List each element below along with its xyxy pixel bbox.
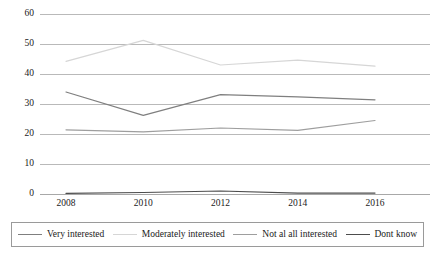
y-tick-label-0: 0 [8, 189, 34, 199]
x-tick-label-2012: 2012 [211, 198, 230, 209]
y-tick-label-60: 60 [8, 9, 34, 19]
x-tick-label-2016: 2016 [366, 198, 385, 209]
legend-item-dont-know[interactable]: Dont know [346, 229, 418, 240]
series-line-very-interested [66, 92, 375, 115]
y-tick-label-30: 30 [8, 99, 34, 109]
series-line-not-al-all-interested [66, 121, 375, 132]
legend-label: Dont know [375, 229, 418, 240]
legend-item-moderately-interested[interactable]: Moderately interested [113, 229, 225, 240]
series-layer [40, 14, 430, 194]
x-tick-label-2014: 2014 [288, 198, 307, 209]
series-line-moderately-interested [66, 40, 375, 66]
legend-swatch-icon [233, 234, 257, 235]
x-tick-label-2008: 2008 [57, 198, 76, 209]
gridline-0 [40, 194, 430, 195]
y-axis: 0102030405060 [0, 14, 34, 194]
legend-item-not-al-all-interested[interactable]: Not al all interested [233, 229, 337, 240]
plot-area [40, 14, 430, 194]
y-tick-label-10: 10 [8, 159, 34, 169]
y-tick-label-40: 40 [8, 69, 34, 79]
legend-swatch-icon [113, 234, 137, 235]
legend-swatch-icon [18, 234, 42, 235]
legend-label: Moderately interested [142, 229, 225, 240]
chart-legend: Very interestedModerately interestedNot … [11, 222, 424, 247]
x-tick-label-2010: 2010 [134, 198, 153, 209]
line-chart: 0102030405060 20082010201220142016 Very … [0, 0, 437, 262]
y-tick-label-50: 50 [8, 39, 34, 49]
legend-label: Not al all interested [262, 229, 337, 240]
series-line-dont-know [66, 191, 375, 193]
y-tick-label-20: 20 [8, 129, 34, 139]
legend-swatch-icon [346, 234, 370, 235]
legend-item-very-interested[interactable]: Very interested [18, 229, 104, 240]
legend-label: Very interested [47, 229, 104, 240]
x-axis: 20082010201220142016 [40, 198, 430, 214]
